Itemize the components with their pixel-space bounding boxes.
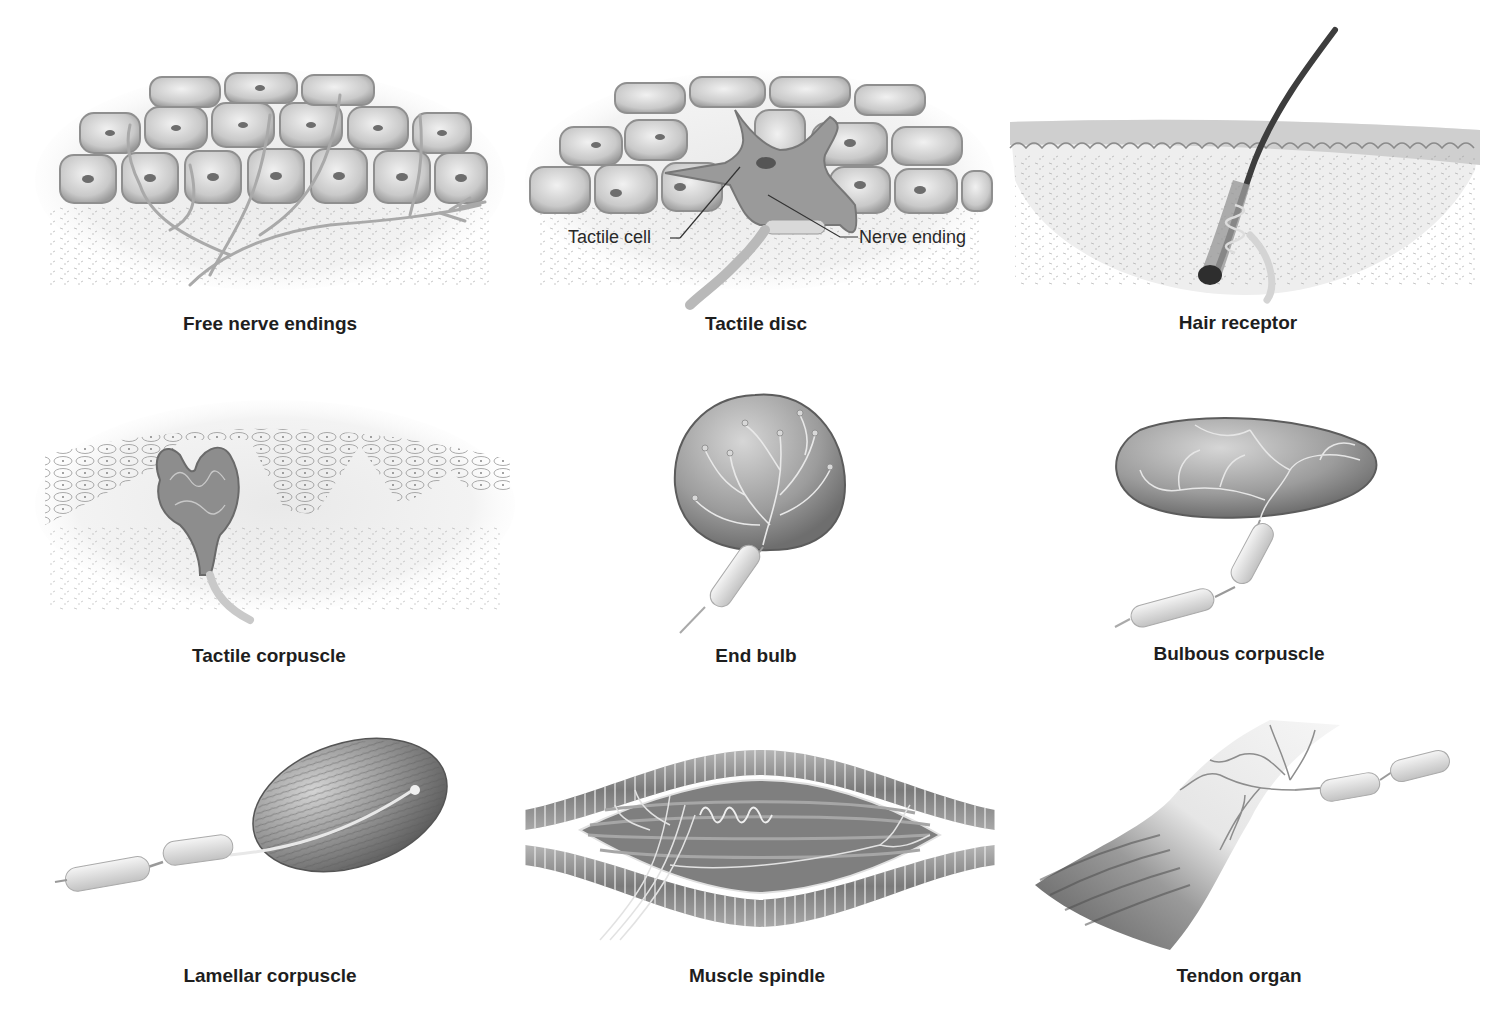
free-nerve-endings-illustration bbox=[30, 55, 510, 295]
panel-tendon-organ: Tendon organ bbox=[1030, 710, 1470, 1000]
caption-hair-receptor: Hair receptor bbox=[1179, 312, 1297, 334]
hair-receptor-illustration bbox=[1005, 30, 1485, 300]
callout-nerve-ending: Nerve ending bbox=[859, 227, 966, 248]
bulbous-corpuscle-illustration bbox=[1100, 405, 1390, 640]
muscle-spindle-illustration bbox=[520, 735, 1000, 945]
tactile-disc-illustration bbox=[520, 55, 1000, 295]
panel-muscle-spindle: Muscle spindle bbox=[520, 735, 1000, 1000]
panel-tactile-corpuscle: Tactile corpuscle bbox=[30, 395, 520, 675]
lamellar-corpuscle-illustration bbox=[55, 740, 475, 910]
caption-tendon-organ: Tendon organ bbox=[1176, 965, 1301, 987]
end-bulb-capsule bbox=[675, 395, 845, 551]
tendon-body bbox=[1035, 720, 1340, 950]
caption-bulbous-corpuscle: Bulbous corpuscle bbox=[1153, 643, 1324, 665]
caption-muscle-spindle: Muscle spindle bbox=[689, 965, 825, 987]
bulbous-corpuscle-capsule bbox=[1116, 418, 1376, 518]
caption-tactile-disc: Tactile disc bbox=[705, 313, 807, 335]
panel-hair-receptor: Hair receptor bbox=[1005, 30, 1485, 345]
caption-tactile-corpuscle: Tactile corpuscle bbox=[192, 645, 346, 667]
caption-free-nerve-endings: Free nerve endings bbox=[183, 313, 357, 335]
tendon-organ-illustration bbox=[1030, 710, 1470, 950]
panel-bulbous-corpuscle: Bulbous corpuscle bbox=[1100, 405, 1390, 675]
panel-end-bulb: End bulb bbox=[620, 375, 890, 675]
tactile-corpuscle-illustration bbox=[30, 395, 520, 625]
caption-end-bulb: End bulb bbox=[715, 645, 796, 667]
end-bulb-illustration bbox=[620, 375, 890, 635]
caption-lamellar-corpuscle: Lamellar corpuscle bbox=[183, 965, 356, 987]
panel-free-nerve-endings: Free nerve endings bbox=[30, 55, 510, 345]
panel-lamellar-corpuscle: Lamellar corpuscle bbox=[55, 740, 475, 1000]
myelin-sheath bbox=[706, 541, 764, 611]
panel-tactile-disc: Tactile cell Nerve ending Tactile disc bbox=[520, 55, 1000, 345]
callout-tactile-cell: Tactile cell bbox=[568, 227, 651, 248]
